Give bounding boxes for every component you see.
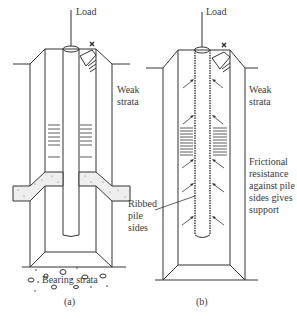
caption-a: (a) (64, 296, 75, 308)
friction-label-1: Frictional (249, 156, 288, 168)
weak-strata-label-a-2: strata (117, 96, 139, 108)
load-label-b: Load (206, 6, 227, 18)
bearing-strata-label: Bearing strata (42, 274, 98, 286)
ribbed-label-2: pile (128, 210, 143, 222)
weak-strata-label-b-2: strata (249, 96, 271, 108)
friction-arrows (182, 80, 224, 225)
friction-label-2: resistance (249, 168, 288, 180)
ribbed-label-3: sides (128, 222, 148, 234)
friction-label-5: support (249, 204, 279, 216)
end-bearing-pile-a (13, 10, 130, 292)
weak-strata-label-b-1: Weak (249, 84, 272, 96)
friction-label-4: sides gives (249, 192, 293, 204)
ribbed-label-1: Ribbed (128, 198, 157, 210)
weak-strata-label-a-1: Weak (117, 84, 140, 96)
friction-label-3: against pile (249, 180, 295, 192)
friction-pile-b (146, 12, 258, 280)
caption-b: (b) (196, 296, 208, 308)
load-label-a: Load (76, 6, 97, 18)
